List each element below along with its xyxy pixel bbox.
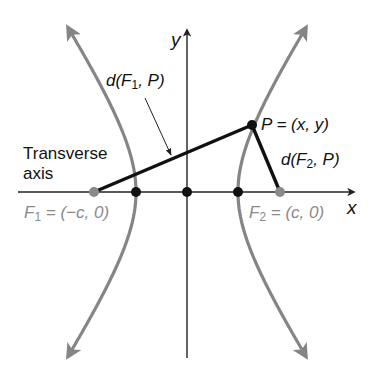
x-axis-label: x [347,198,357,217]
vertex-left-point [131,187,141,197]
d-f2-p-label: d(F2, P) [281,151,340,168]
focus-f2-point [275,187,285,197]
d-f1-p-prefix: d(F [106,71,132,90]
focus-f2-suffix: = (c, 0) [266,203,324,222]
focus-f1-label: F1 = (−c, 0) [24,204,109,221]
focus-f2-label: F2 = (c, 0) [249,204,324,221]
transverse-axis-label-line1: Transverse [23,145,107,162]
d-f1-p-leader-arrow [145,98,171,155]
d-f2-p-prefix: d(F [281,150,307,169]
d-f1-p-label: d(F1, P) [106,72,165,89]
y-axis-label: y [171,30,181,49]
focus-f1-suffix: = (−c, 0) [41,203,109,222]
point-p [247,120,257,130]
vertex-right-point [233,187,243,197]
d-f2-p-suffix: , P) [313,150,339,169]
focus-f2-prefix: F [249,203,259,222]
origin-point [182,187,192,197]
transverse-axis-label-line2: axis [23,165,53,182]
hyperbola-diagram [0,0,378,377]
segment-f1-p [94,125,252,192]
focus-f1-point [89,187,99,197]
focus-f1-prefix: F [24,203,34,222]
point-p-label: P = (x, y) [261,116,329,133]
d-f1-p-suffix: , P) [138,71,164,90]
segment-f2-p [252,125,280,192]
hyperbola-left-upper-branch [68,27,136,192]
